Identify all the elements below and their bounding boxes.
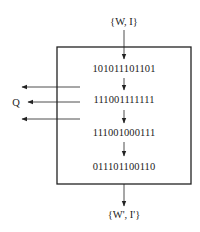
- input-label: {W, I}: [110, 16, 138, 27]
- output-label: {W', I'}: [108, 209, 141, 220]
- state-2: 111001111111: [93, 94, 154, 105]
- state-transition-diagram: {W, I} 101011101101 111001111111 1110010…: [0, 0, 200, 232]
- state-4: 011101100110: [93, 161, 156, 172]
- state-3: 111001000111: [93, 127, 156, 138]
- side-output-label: Q: [12, 97, 20, 108]
- state-1: 101011101101: [92, 63, 155, 74]
